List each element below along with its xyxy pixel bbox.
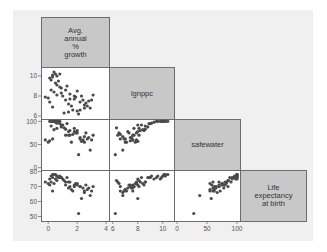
data-point xyxy=(159,120,162,123)
data-point xyxy=(79,108,82,111)
data-point xyxy=(71,189,74,192)
data-point xyxy=(121,191,124,194)
data-point xyxy=(139,180,142,183)
data-point xyxy=(64,134,67,137)
data-point xyxy=(132,134,135,137)
data-point xyxy=(64,180,67,183)
data-point xyxy=(132,185,135,188)
data-point xyxy=(87,99,90,102)
data-point xyxy=(125,189,128,192)
data-point xyxy=(77,112,80,115)
data-point xyxy=(114,153,117,156)
data-point xyxy=(87,186,90,189)
data-point xyxy=(142,183,145,186)
data-point xyxy=(84,183,87,186)
data-point xyxy=(208,189,211,192)
x-tick-label: 100 xyxy=(232,225,243,232)
data-point xyxy=(52,128,55,131)
data-point xyxy=(192,212,195,215)
data-point xyxy=(73,183,76,186)
x-tick-label: 4 xyxy=(104,225,108,232)
data-point xyxy=(68,92,71,95)
data-point xyxy=(55,174,58,177)
data-point xyxy=(132,127,135,130)
data-point xyxy=(136,183,139,186)
data-point xyxy=(127,183,130,186)
data-point xyxy=(116,180,119,183)
data-point xyxy=(64,88,67,91)
y-tick-label: 10 xyxy=(30,72,38,79)
data-point xyxy=(124,137,127,140)
data-point xyxy=(55,127,58,130)
data-point xyxy=(51,176,54,179)
data-point xyxy=(64,98,67,101)
data-point xyxy=(51,189,54,192)
data-point xyxy=(68,97,71,100)
data-point xyxy=(226,185,229,188)
data-point xyxy=(211,189,214,192)
data-point xyxy=(136,140,139,143)
data-point xyxy=(48,183,51,186)
data-point xyxy=(55,122,58,125)
data-point xyxy=(114,212,117,215)
data-point xyxy=(127,131,130,134)
data-point xyxy=(79,137,82,140)
data-point xyxy=(65,122,68,125)
data-point xyxy=(79,185,82,188)
data-point xyxy=(44,95,47,98)
data-point xyxy=(213,185,216,188)
data-point xyxy=(68,129,71,132)
data-point xyxy=(217,180,220,183)
y-tick-label: 70 xyxy=(30,183,38,190)
data-point xyxy=(83,135,86,138)
data-point xyxy=(44,138,47,141)
data-point xyxy=(137,134,140,137)
data-point xyxy=(225,180,228,183)
data-point xyxy=(217,185,220,188)
data-point xyxy=(121,149,124,152)
data-point xyxy=(50,88,53,91)
data-point xyxy=(51,105,54,108)
data-point xyxy=(140,176,143,179)
data-point xyxy=(92,134,95,137)
data-point xyxy=(76,109,79,112)
data-point xyxy=(61,94,64,97)
data-point xyxy=(73,130,76,133)
data-point xyxy=(119,185,122,188)
data-point xyxy=(57,79,60,82)
data-point xyxy=(55,179,58,182)
data-point xyxy=(51,75,54,78)
data-point xyxy=(63,111,66,114)
y-tick-label: 50 xyxy=(30,213,38,220)
data-point xyxy=(48,177,51,180)
scatter-overlay: 6810050100506070800246810050100 xyxy=(0,0,327,252)
data-point xyxy=(90,138,93,141)
data-point xyxy=(71,133,74,136)
data-point xyxy=(136,197,139,200)
y-tick-label: 50 xyxy=(30,141,38,148)
data-point xyxy=(67,102,70,105)
data-point xyxy=(77,153,80,156)
data-point xyxy=(115,126,118,129)
data-point xyxy=(210,197,213,200)
data-point xyxy=(55,74,58,77)
data-point xyxy=(147,122,150,125)
data-point xyxy=(83,189,86,192)
data-point xyxy=(211,180,214,183)
x-tick-label: 50 xyxy=(203,225,211,232)
data-point xyxy=(52,90,55,93)
data-point xyxy=(87,136,90,139)
data-point xyxy=(222,186,225,189)
data-point xyxy=(131,138,134,141)
data-point xyxy=(73,94,76,97)
x-tick-label: 0 xyxy=(46,225,50,232)
data-point xyxy=(79,100,82,103)
data-point xyxy=(52,182,55,185)
data-point xyxy=(44,180,47,183)
data-point xyxy=(76,89,79,92)
data-point xyxy=(125,141,128,144)
data-point xyxy=(65,176,68,179)
data-point xyxy=(116,134,119,137)
data-point xyxy=(68,185,71,188)
data-point xyxy=(70,141,73,144)
